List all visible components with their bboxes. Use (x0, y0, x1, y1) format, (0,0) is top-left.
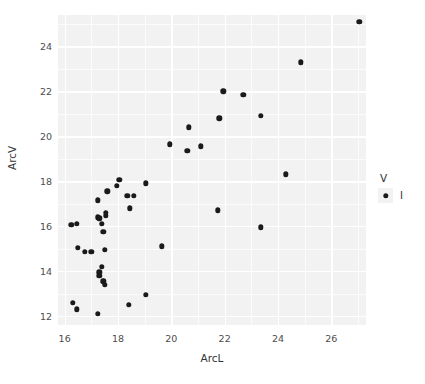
data-point (89, 249, 94, 254)
y-axis-title: ArcV (6, 146, 18, 170)
gridline-major-horizontal (58, 91, 366, 92)
gridline-minor-horizontal (58, 69, 366, 70)
gridline-minor-horizontal (58, 294, 366, 295)
gridline-minor-vertical (91, 15, 92, 325)
data-point (215, 208, 220, 213)
data-point (283, 172, 288, 177)
y-tick-label: 20 (24, 131, 52, 142)
legend-marker-icon (378, 188, 393, 203)
data-point (185, 148, 190, 153)
data-point (125, 193, 130, 198)
data-point (127, 205, 132, 210)
data-point (143, 181, 148, 186)
x-tick-label: 18 (112, 333, 124, 344)
data-point (241, 92, 246, 97)
y-tick-label: 18 (24, 176, 52, 187)
data-point (82, 249, 87, 254)
gridline-major-vertical (331, 15, 332, 325)
data-point (217, 116, 222, 121)
data-point (143, 292, 148, 297)
gridline-minor-vertical (145, 15, 146, 325)
gridline-major-horizontal (58, 271, 366, 272)
legend: V I (378, 172, 424, 203)
y-tick-label: 12 (24, 311, 52, 322)
gridline-major-vertical (278, 15, 279, 325)
legend-item-label: I (400, 190, 403, 201)
data-point (258, 113, 263, 118)
legend-title: V (380, 172, 424, 184)
x-tick-label: 22 (219, 333, 231, 344)
scatter-plot-figure: 12141618202224 161820222426 ArcL ArcV V … (0, 0, 425, 384)
plot-panel (58, 15, 366, 325)
gridline-minor-vertical (305, 15, 306, 325)
x-tick-label: 16 (59, 333, 71, 344)
data-point (103, 213, 108, 218)
data-point (102, 247, 107, 252)
gridline-major-vertical (225, 15, 226, 325)
gridline-major-horizontal (58, 181, 366, 182)
y-tick-label: 22 (24, 86, 52, 97)
data-point (97, 216, 102, 221)
gridline-minor-horizontal (58, 159, 366, 160)
gridline-minor-horizontal (58, 24, 366, 25)
gridline-major-horizontal (58, 316, 366, 317)
data-point (258, 225, 263, 230)
data-point (198, 144, 203, 149)
x-tick-label: 24 (272, 333, 284, 344)
gridline-major-vertical (171, 15, 172, 325)
gridline-minor-vertical (198, 15, 199, 325)
y-tick-label: 14 (24, 266, 52, 277)
data-point (186, 125, 191, 130)
data-point (95, 198, 100, 203)
data-point (101, 229, 106, 234)
data-point (126, 302, 131, 307)
gridline-major-horizontal (58, 226, 366, 227)
data-point (99, 264, 104, 269)
gridline-major-horizontal (58, 46, 366, 47)
data-point (97, 273, 102, 278)
data-point (131, 193, 136, 198)
gridline-major-vertical (118, 15, 119, 325)
gridline-major-vertical (65, 15, 66, 325)
data-point (70, 300, 75, 305)
data-point (298, 59, 303, 64)
gridline-minor-horizontal (58, 114, 366, 115)
gridline-minor-vertical (358, 15, 359, 325)
data-point (102, 282, 107, 287)
data-point (105, 189, 110, 194)
data-point (75, 245, 80, 250)
y-tick-label: 24 (24, 41, 52, 52)
data-point (74, 307, 79, 312)
x-axis-title: ArcL (58, 352, 366, 364)
legend-item-I[interactable]: I (378, 188, 424, 203)
gridline-minor-horizontal (58, 204, 366, 205)
x-tick-label: 20 (165, 333, 177, 344)
gridline-major-horizontal (58, 136, 366, 137)
gridline-minor-vertical (251, 15, 252, 325)
y-tick-label: 16 (24, 221, 52, 232)
x-tick-label: 26 (325, 333, 337, 344)
